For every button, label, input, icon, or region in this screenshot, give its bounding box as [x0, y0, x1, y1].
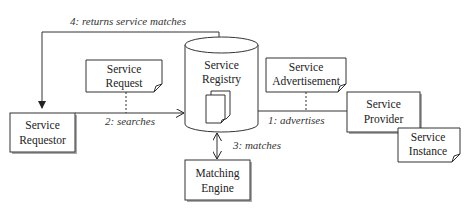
note-service-request: Service Request — [86, 60, 162, 92]
edge-label-advertises: 1: advertises — [268, 114, 325, 126]
service-discovery-diagram: 4: returns service matches 2: searches 1… — [0, 0, 472, 210]
node-matching-engine: Matching Engine — [185, 160, 252, 202]
node-service-requestor: Service Requestor — [10, 113, 77, 154]
edge-advertises: 1: advertises — [258, 111, 347, 126]
node-service-registry: Service Registry — [185, 37, 258, 132]
svg-text:Requestor: Requestor — [19, 134, 66, 147]
edge-label-searches: 2: searches — [105, 115, 155, 127]
svg-text:Service: Service — [289, 61, 323, 73]
svg-text:Registry: Registry — [202, 73, 241, 86]
edge-searches: 2: searches — [75, 113, 184, 127]
note-service-instance: Service Instance — [398, 128, 460, 162]
svg-text:Request: Request — [105, 77, 143, 90]
svg-text:Instance: Instance — [409, 145, 447, 157]
svg-text:Service: Service — [204, 59, 238, 71]
svg-text:Matching: Matching — [195, 167, 239, 180]
svg-text:Service: Service — [366, 98, 400, 110]
svg-text:Advertisement: Advertisement — [272, 75, 341, 87]
note-service-advertisement: Service Advertisement — [266, 58, 346, 92]
edge-matches: 3: matches — [217, 133, 281, 159]
svg-text:Service: Service — [411, 131, 445, 143]
documents-icon — [206, 91, 230, 123]
edge-label-matches: 3: matches — [232, 139, 281, 151]
svg-text:Service: Service — [107, 63, 141, 75]
svg-text:Engine: Engine — [201, 182, 234, 195]
svg-text:Service: Service — [25, 119, 59, 131]
edge-label-returns: 4: returns service matches — [70, 15, 186, 27]
svg-text:Provider: Provider — [364, 113, 404, 125]
